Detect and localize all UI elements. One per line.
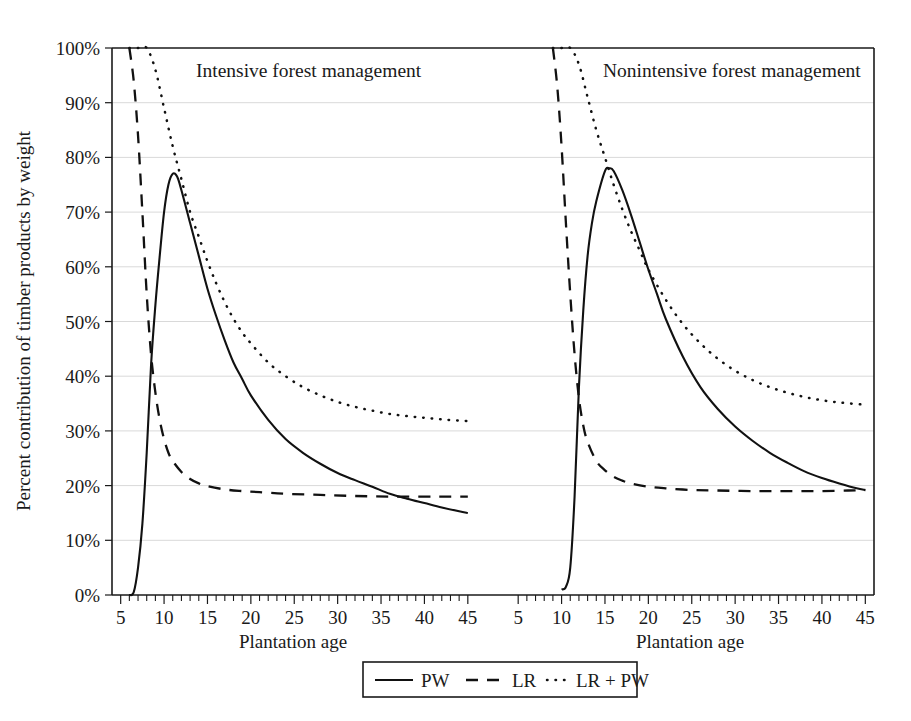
- x-axis-left: 51015202530354045: [116, 595, 477, 628]
- series-group-right: [553, 47, 865, 590]
- x-tick-label-35-panel0: 35: [372, 607, 391, 628]
- y-tick-label-70: 70%: [65, 202, 100, 223]
- y-tick-label-80: 80%: [65, 147, 100, 168]
- x-tick-label-10-panel0: 10: [155, 607, 174, 628]
- legend-label-lr-pw: LR + PW: [576, 670, 649, 691]
- y-tick-label-30: 30%: [65, 421, 100, 442]
- x-tick-label-10-panel1: 10: [552, 607, 571, 628]
- y-tick-label-10: 10%: [65, 530, 100, 551]
- x-tick-label-30-panel1: 30: [726, 607, 745, 628]
- figure-container: 0%10%20%30%40%50%60%70%80%90%100% 510152…: [0, 0, 911, 721]
- y-tick-label-60: 60%: [65, 257, 100, 278]
- x-tick-label-5-panel1: 5: [513, 607, 523, 628]
- x-tick-label-5-panel0: 5: [116, 607, 126, 628]
- series-line-pw-panel0: [129, 173, 467, 595]
- x-tick-label-45-panel1: 45: [856, 607, 875, 628]
- chart-svg: 0%10%20%30%40%50%60%70%80%90%100% 510152…: [0, 0, 911, 721]
- x-tick-label-45-panel0: 45: [458, 607, 477, 628]
- x-tick-label-35-panel1: 35: [769, 607, 788, 628]
- x-tick-label-30-panel0: 30: [328, 607, 347, 628]
- gridlines: [112, 103, 874, 541]
- panel-title-nonintensive: Nonintensive forest management: [603, 60, 861, 81]
- series-line-lr-panel1: [553, 48, 865, 491]
- panel-title-intensive: Intensive forest management: [196, 60, 422, 81]
- y-tick-label-90: 90%: [65, 93, 100, 114]
- y-axis-title: Percent contribution of timber products …: [13, 130, 34, 511]
- y-tick-label-0: 0%: [75, 585, 101, 606]
- y-tick-label-40: 40%: [65, 366, 100, 387]
- x-tick-label-20-panel1: 20: [639, 607, 658, 628]
- legend: PW LR LR + PW: [363, 662, 649, 697]
- x-tick-label-25-panel0: 25: [285, 607, 304, 628]
- x-tick-label-20-panel0: 20: [241, 607, 260, 628]
- series-line-lr-pw-panel1: [553, 47, 865, 405]
- series-line-lr-panel0: [129, 48, 467, 497]
- x-axis-title-left: Plantation age: [239, 631, 347, 652]
- x-axis-title-right: Plantation age: [636, 631, 744, 652]
- series-group-left: [129, 46, 467, 595]
- series-line-pw-panel1: [562, 168, 866, 590]
- y-axis: 0%10%20%30%40%50%60%70%80%90%100%: [56, 38, 112, 606]
- y-tick-label-20: 20%: [65, 476, 100, 497]
- x-tick-label-40-panel0: 40: [415, 607, 434, 628]
- y-tick-label-100: 100%: [56, 38, 101, 59]
- y-tick-label-50: 50%: [65, 312, 100, 333]
- legend-label-pw: PW: [421, 670, 450, 691]
- x-tick-label-25-panel1: 25: [682, 607, 701, 628]
- legend-label-lr: LR: [512, 670, 537, 691]
- x-tick-label-15-panel1: 15: [595, 607, 614, 628]
- x-tick-label-15-panel0: 15: [198, 607, 217, 628]
- x-axis-right: 51015202530354045: [513, 595, 874, 628]
- x-tick-label-40-panel1: 40: [812, 607, 831, 628]
